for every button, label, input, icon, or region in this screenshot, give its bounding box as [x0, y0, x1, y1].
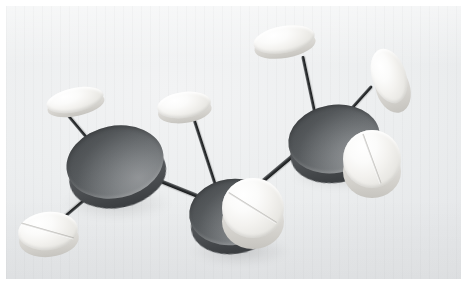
photo-frame	[0, 0, 467, 287]
hydrogen-2-score-line	[21, 222, 75, 239]
hydrogen-4-face	[222, 178, 284, 238]
atom-hydrogen-4	[222, 178, 284, 238]
atom-hydrogen-3	[155, 88, 212, 121]
hydrogen-4-score-line	[228, 192, 277, 224]
hydrogen-7-score-line	[362, 134, 382, 185]
photograph-canvas	[6, 6, 461, 279]
atom-hydrogen-1	[44, 82, 106, 118]
atom-hydrogen-5	[251, 21, 317, 58]
hydrogen-7-face	[343, 130, 401, 188]
atom-hydrogen-2	[16, 209, 80, 253]
atom-hydrogen-7	[343, 130, 401, 188]
